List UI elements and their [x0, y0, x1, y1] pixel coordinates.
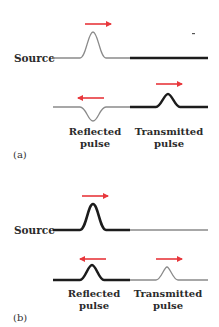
reflected-label: Reflected [68, 288, 120, 299]
reflected-label-line2: pulse [79, 300, 109, 311]
light-string-with-pulse [130, 267, 208, 280]
source-label: Source [14, 224, 55, 236]
panel-a-incident: Source [14, 24, 208, 64]
panel-b-label: (b) [13, 312, 27, 323]
panel-a-label: (a) [13, 149, 27, 160]
light-string-with-inverted-pulse [53, 107, 130, 121]
light-string-with-pulse [53, 32, 130, 58]
panel-b: Source Reflected pulse Transmitted pulse… [13, 196, 208, 323]
transmitted-label-line2: pulse [154, 138, 184, 149]
reflected-label: Reflected [69, 126, 121, 137]
panel-b-incident: Source [14, 196, 208, 236]
transmitted-label: Transmitted [134, 288, 202, 299]
panel-b-result: Reflected pulse Transmitted pulse [53, 259, 208, 311]
heavy-string-with-pulse [130, 94, 208, 107]
transmitted-label: Transmitted [135, 126, 203, 137]
heavy-string-with-pulse [53, 265, 130, 280]
speck-artifact [192, 33, 195, 34]
wave-reflection-diagram: Source Reflected pulse Transmitted pulse… [0, 0, 219, 327]
reflected-label-line2: pulse [80, 138, 110, 149]
panel-a: Source Reflected pulse Transmitted pulse… [13, 24, 208, 160]
panel-a-result: Reflected pulse Transmitted pulse [53, 84, 208, 149]
transmitted-label-line2: pulse [153, 300, 183, 311]
source-label: Source [14, 52, 55, 64]
heavy-string-with-pulse [53, 204, 130, 230]
